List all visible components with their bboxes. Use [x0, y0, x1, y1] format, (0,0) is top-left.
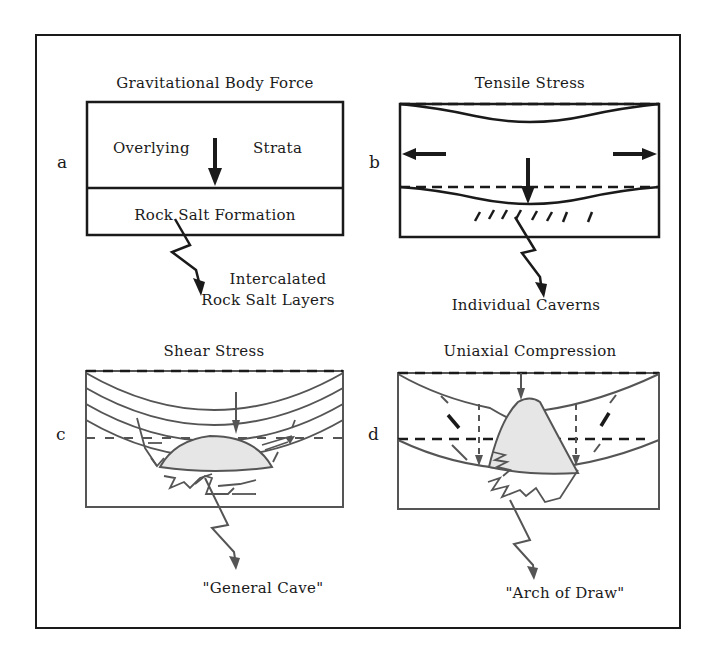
panel-a-zigzag-callout — [172, 219, 200, 286]
panel-b-id: b — [369, 152, 380, 172]
panel-b-sagging-top — [400, 104, 659, 122]
panel-b-callout: Individual Caverns — [452, 296, 601, 314]
panel-b: Tensile Stress b Individual Caverns — [369, 74, 659, 314]
panel-a-id: a — [57, 152, 67, 172]
panel-c-cave-dome — [160, 436, 272, 471]
panel-a-callout-line2: Rock Salt Layers — [201, 291, 334, 309]
panel-d-id: d — [368, 424, 379, 444]
panel-c-id: c — [56, 424, 66, 444]
panel-a-title: Gravitational Body Force — [116, 74, 314, 92]
panel-b-title: Tensile Stress — [475, 74, 585, 92]
arrow-down-icon — [527, 566, 538, 580]
arrow-down-icon — [521, 186, 535, 204]
arrow-down-icon — [232, 420, 240, 434]
panel-d-callout: "Arch of Draw" — [505, 584, 624, 602]
panel-c-callout: "General Cave" — [203, 579, 324, 597]
figure-canvas: Gravitational Body Force a Overlying Str… — [0, 0, 710, 656]
arrow-left-icon — [402, 148, 416, 160]
panel-a-label-strata: Strata — [253, 139, 302, 157]
outer-frame — [36, 35, 680, 628]
arrow-down-icon — [517, 388, 525, 400]
panel-b-zigzag-callout — [515, 217, 542, 292]
panel-d-title: Uniaxial Compression — [443, 342, 616, 360]
panel-a: Gravitational Body Force a Overlying Str… — [57, 74, 343, 309]
arrow-right-icon — [642, 148, 657, 160]
arrow-down-icon — [229, 556, 240, 570]
panel-a-label-overlying: Overlying — [113, 139, 190, 157]
panel-d-zigzag-callout — [510, 500, 534, 574]
panel-b-cavern-hatches — [475, 210, 592, 222]
figure-svg: Gravitational Body Force a Overlying Str… — [0, 0, 710, 656]
panel-c-title: Shear Stress — [163, 342, 264, 360]
panel-a-callout-line1: Intercalated — [230, 270, 327, 288]
panel-a-label-rock-salt: Rock Salt Formation — [134, 206, 296, 224]
panel-d-arch-of-draw — [489, 399, 578, 474]
arrow-down-icon — [208, 168, 222, 186]
panel-d: Uniaxial Compression d — [368, 342, 659, 602]
panel-c: Shear Stress c — [56, 342, 343, 597]
